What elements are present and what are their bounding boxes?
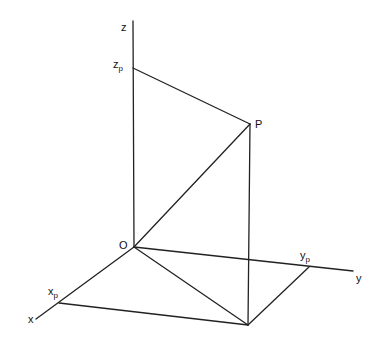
coordinate-diagram: z zp P O yp y xp x [0, 0, 381, 350]
zp-to-p-line [133, 68, 250, 124]
x-axis-label: x [28, 313, 34, 325]
z-axis [133, 21, 134, 247]
p-vertical-drop-line [248, 124, 250, 325]
xp-label-sub: p [54, 291, 59, 300]
xp-label: xp [48, 285, 59, 300]
zp-label-sub: p [119, 64, 124, 73]
origin-to-p-line [134, 124, 250, 247]
yp-label: yp [300, 249, 311, 264]
point-p-label: P [255, 118, 262, 130]
y-axis [134, 247, 353, 271]
zp-label: zp [113, 58, 124, 73]
z-axis-label: z [121, 21, 127, 33]
x-axis [36, 247, 134, 319]
origin-label: O [119, 239, 128, 251]
y-axis-label: y [356, 272, 362, 284]
yp-label-sub: p [306, 255, 311, 264]
yp-to-base-line [248, 267, 309, 325]
